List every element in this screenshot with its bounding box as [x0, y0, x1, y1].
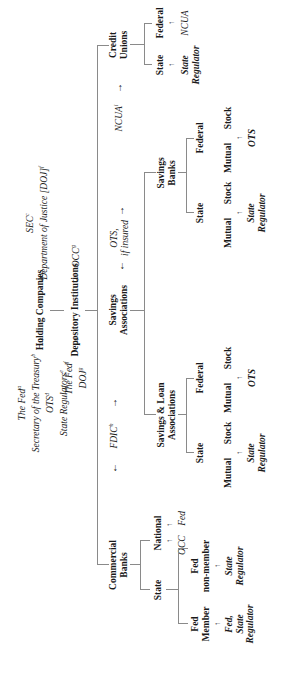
connector: [178, 548, 179, 624]
connector: [186, 212, 194, 213]
connector: [144, 64, 152, 65]
connector: [50, 310, 64, 311]
cu-state-regulator: State Regulator: [180, 45, 201, 84]
connector: [140, 540, 141, 590]
cu-federal-node: Federal: [155, 7, 166, 38]
ots-if-insured-label: OTS, if insured: [109, 220, 131, 256]
arrow-left-icon: ←: [115, 261, 126, 271]
sl-state-stock: Stock: [223, 422, 234, 445]
arrow-right-icon: →: [70, 336, 81, 346]
main-branch-line: [97, 45, 98, 565]
sl-state-node: State: [195, 443, 206, 464]
connector: [166, 589, 178, 590]
sl-state-regulator: State Regulator: [246, 433, 267, 472]
commercial-banks-node: Commercial Banks: [108, 540, 129, 590]
cb-state-node: State: [153, 580, 164, 601]
cu-federal-regulator: NCUA: [180, 10, 191, 35]
sb-federal-regulator: OTS: [247, 129, 258, 147]
arrow-up-icon: ↑: [167, 63, 178, 67]
connector: [186, 138, 194, 139]
savings-banks-node: Savings Banks: [156, 157, 177, 188]
connector: [140, 540, 150, 541]
fed-nonmember-regulator: State Regulator: [224, 546, 245, 585]
sb-state-stock: Stock: [223, 182, 234, 205]
connector: [178, 623, 188, 624]
arrow-left-icon: ←: [70, 273, 81, 283]
connector: [186, 378, 194, 379]
sl-federal-mutual: Mutual: [223, 383, 234, 413]
arrow-up-icon: ↑: [235, 211, 246, 215]
arrow-left-icon: ←: [108, 463, 119, 473]
connector: [144, 23, 152, 24]
connector: [85, 310, 97, 311]
arrow-up-icon: ↑: [213, 622, 224, 626]
sb-state-mutual: Mutual: [223, 218, 234, 248]
connector: [178, 414, 186, 415]
arrow-right-icon: →: [113, 83, 124, 93]
connector: [130, 310, 144, 311]
arrow-right-icon: →: [108, 398, 119, 408]
ncua-label: NCUAi: [111, 104, 125, 131]
sl-state-mutual: Mutual: [223, 458, 234, 488]
connector: [186, 138, 187, 213]
credit-unions-node: Credit Unions: [108, 31, 129, 60]
arrow-up-icon: ↑: [235, 376, 246, 380]
connector: [130, 44, 144, 45]
fdic-label: FDICh: [106, 423, 120, 448]
hc-right-regulators: SECc Department of Justice [DOJ]f: [22, 166, 50, 279]
arrow-up-icon: ↑ ↑: [165, 523, 176, 543]
sl-federal-stock: Stock: [223, 347, 234, 370]
fed-member-regulator: Fed, State Regulator: [224, 604, 256, 643]
sb-state-node: State: [195, 203, 206, 224]
sb-federal-stock: Stock: [223, 107, 234, 130]
cb-national-node: National: [153, 516, 164, 551]
connector: [178, 172, 186, 173]
connector: [144, 172, 145, 415]
arrow-up-icon: ↑: [235, 451, 246, 455]
connector: [144, 414, 156, 415]
di-left-regulators: The Fedf DOJg: [61, 361, 89, 394]
connector: [144, 172, 156, 173]
arrow-right-icon: →: [35, 336, 46, 346]
arrow-up-icon: ↑: [213, 564, 224, 568]
connector: [186, 378, 187, 453]
sb-state-regulator: State Regulator: [246, 193, 267, 232]
di-right-regulator: OCCg: [68, 245, 82, 268]
connector: [144, 23, 145, 65]
fed-member-node: Fed Member: [190, 607, 211, 642]
arrow-up-icon: ↑: [167, 21, 178, 25]
sl-federal-node: Federal: [195, 362, 206, 393]
savings-associations-node: Savings Associations: [108, 285, 129, 335]
sb-federal-mutual: Mutual: [223, 143, 234, 173]
sb-federal-node: Federal: [195, 122, 206, 153]
connector: [140, 589, 150, 590]
savings-loan-node: Savings & Loan Associations: [156, 383, 177, 448]
cu-state-node: State: [155, 55, 166, 76]
fed-nonmember-node: Fed non-member: [190, 540, 211, 592]
sl-federal-regulator: OTS: [247, 369, 258, 387]
connector: [130, 564, 140, 565]
arrow-right-icon: →: [115, 206, 126, 216]
regulatory-structure-diagram: Holding Companies Depository Institution…: [0, 0, 289, 678]
connector: [178, 548, 188, 549]
arrow-up-icon: ↑: [235, 136, 246, 140]
connector: [186, 452, 194, 453]
